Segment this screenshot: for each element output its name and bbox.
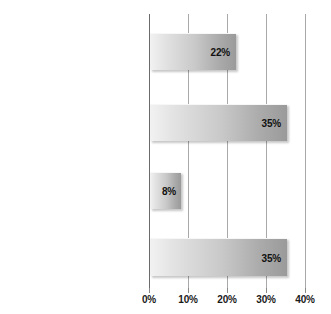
bar-group-1: 22%: [150, 33, 236, 70]
tickmark-40: [305, 288, 306, 293]
plot-area: 22% 35% 8% 35%: [149, 14, 306, 288]
xtick-label-20: 20%: [217, 294, 236, 305]
xtick-label-30: 30%: [256, 294, 275, 305]
bar-group-2: 35%: [150, 104, 287, 141]
tickmark-0: [149, 288, 150, 293]
tickmark-30: [266, 288, 267, 293]
xtick-label-0: 0%: [142, 294, 156, 305]
gridline-40: [305, 14, 306, 288]
xtick-label-10: 10%: [178, 294, 197, 305]
bar-group-3: 8%: [150, 172, 181, 209]
bar-group-4: 35%: [150, 238, 287, 276]
bar-chart: 22% 35% 8% 35% 0% 10% 20% 30% 40% Group …: [0, 0, 331, 314]
bar-value-group-1: 22%: [211, 47, 230, 58]
bar-value-group-2: 35%: [262, 118, 281, 129]
bar-value-group-3: 8%: [162, 186, 176, 197]
tickmark-20: [227, 288, 228, 293]
xtick-label-40: 40%: [295, 294, 314, 305]
bar-value-group-4: 35%: [262, 252, 281, 263]
tickmark-10: [188, 288, 189, 293]
